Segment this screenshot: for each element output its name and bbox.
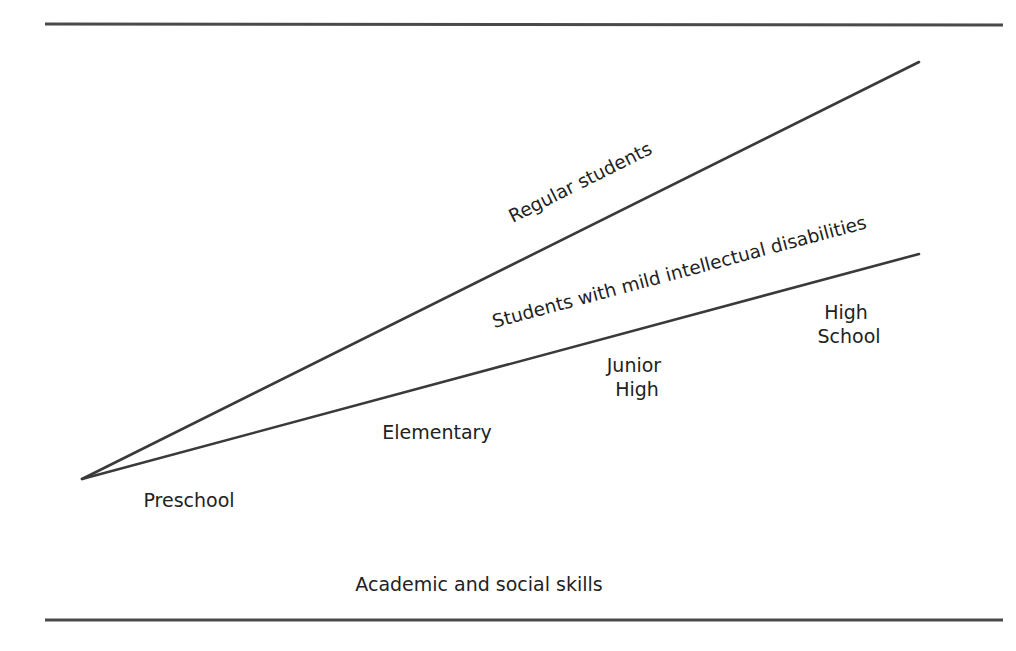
- stage-label-line: School: [817, 325, 880, 347]
- stage-label-line: Junior: [606, 354, 662, 376]
- stage-label-line: High: [615, 378, 659, 400]
- stage-label-junior-high: Junior High: [606, 354, 667, 400]
- top-rule: [45, 24, 1003, 25]
- stage-label-line: High: [824, 301, 868, 323]
- regular-students-line: [82, 62, 919, 479]
- diagram-figure: Regular students Students with mild inte…: [0, 0, 1016, 651]
- stage-label-line: Preschool: [143, 489, 234, 511]
- diagram-canvas: Regular students Students with mild inte…: [0, 0, 1016, 651]
- stage-label-elementary: Elementary: [382, 421, 491, 443]
- stage-label-line: Elementary: [382, 421, 491, 443]
- stage-label-preschool: Preschool: [143, 489, 234, 511]
- mild-disabilities-line: [82, 254, 919, 479]
- mild-disabilities-label: Students with mild intellectual disabili…: [490, 212, 869, 332]
- regular-students-label: Regular students: [505, 138, 655, 227]
- stage-label-high-school: High School: [817, 301, 880, 347]
- axis-label: Academic and social skills: [355, 573, 602, 595]
